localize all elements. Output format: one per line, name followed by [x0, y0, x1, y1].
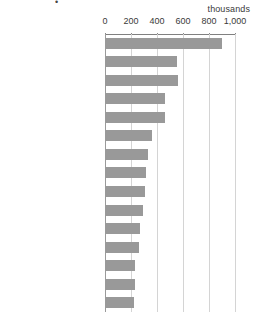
bar [105, 167, 146, 178]
chart-row: Oxford [105, 108, 235, 127]
bar [105, 279, 135, 290]
chart-row: Cambridge [105, 127, 235, 146]
chart-row: Nottingham [105, 275, 235, 294]
x-tick-label: 400 [149, 16, 164, 26]
bar [105, 260, 135, 271]
chart-title-remnant: • [55, 0, 61, 5]
chart-row: Edinburgh [105, 34, 235, 53]
chart-row: Liverpool [105, 256, 235, 275]
bar [105, 297, 134, 308]
x-axis-ticks: 02004006008001,000 [105, 16, 235, 34]
bar [105, 112, 165, 123]
x-tick-label: 600 [175, 16, 190, 26]
bar [105, 93, 165, 104]
x-tick-label: 800 [201, 16, 216, 26]
x-tick-label: 200 [123, 16, 138, 26]
bar [105, 75, 178, 86]
chart-row: Manchester [105, 53, 235, 72]
chart-row: Newcastle-upon-Tyne [105, 293, 235, 312]
bar [105, 186, 145, 197]
axis-unit-label: thousands [208, 4, 250, 14]
chart-row: Bath [105, 182, 235, 201]
bar [105, 205, 143, 216]
chart-row: York [105, 164, 235, 183]
plot-area: EdinburghManchesterBirminghamGlasgowOxfo… [105, 34, 235, 312]
x-tick-label: 1,000 [224, 16, 247, 26]
chart-row: Brighton / Hove [105, 201, 235, 220]
bar [105, 149, 148, 160]
chart-row: Glasgow [105, 90, 235, 109]
chart-row: Inverness [105, 238, 235, 257]
bar [105, 223, 140, 234]
bar [105, 56, 177, 67]
x-tick-label: 0 [102, 16, 107, 26]
bar-chart: • thousands 02004006008001,000 Edinburgh… [0, 0, 254, 316]
bar [105, 242, 139, 253]
gridline [235, 34, 236, 312]
chart-row: Bristol [105, 145, 235, 164]
bar [105, 38, 222, 49]
chart-row: Birmingham [105, 71, 235, 90]
bar [105, 130, 152, 141]
chart-row: Cardiff [105, 219, 235, 238]
